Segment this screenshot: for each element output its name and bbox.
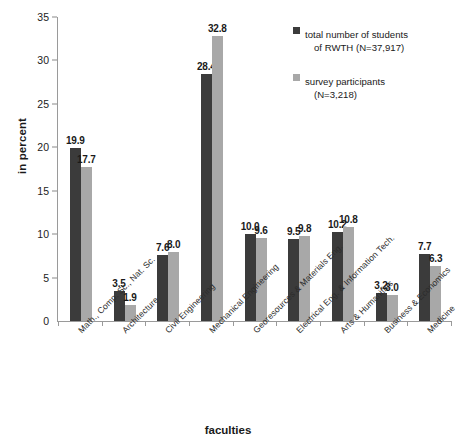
legend-entry-total-students: total number of students of RWTH (N=37,9… (293, 24, 453, 55)
x-axis-title: faculties (0, 424, 456, 436)
x-tick-mark (276, 321, 277, 326)
bar-series-1 (212, 36, 223, 321)
x-tick-mark (364, 321, 365, 326)
bar-value-label: 32.8 (208, 23, 227, 34)
bar-value-label: 10.8 (339, 214, 358, 225)
bar-chart: in percent 05101520253035 19.917.73.51.9… (0, 0, 456, 447)
y-tick-label-35: 35 (37, 11, 49, 23)
bar-value-label: 17.7 (77, 154, 96, 165)
legend-label-series-1: survey participants (N=3,218) (305, 76, 453, 102)
y-tick-label-20: 20 (37, 141, 49, 153)
y-tick-label-25: 25 (37, 98, 49, 110)
y-tick-label-30: 30 (37, 54, 49, 66)
bar-value-label: 7.7 (418, 241, 431, 252)
x-tick-mark (407, 321, 408, 326)
x-tick-mark (451, 321, 452, 326)
legend-label-series-0: total number of students of RWTH (N=37,9… (305, 29, 453, 55)
legend-swatch-icon-series-1 (293, 74, 300, 81)
x-tick-mark (102, 321, 103, 326)
bar-series-0 (245, 234, 256, 321)
bar-group: 7.68.0 (157, 17, 179, 321)
x-tick-mark (233, 321, 234, 326)
bar-series-0 (70, 148, 81, 321)
y-tick-label-5: 5 (43, 272, 49, 284)
bar-value-label: 1.9 (123, 292, 136, 303)
legend-swatch-icon-series-0 (293, 27, 300, 34)
legend-label-series-1-line2: (N=3,218) (305, 89, 453, 102)
bar-value-label: 9.8 (298, 223, 311, 234)
bar-series-1 (168, 252, 179, 321)
bar-group: 28.432.8 (201, 17, 223, 321)
bar-value-label: 8.0 (167, 239, 180, 250)
bar-series-1 (81, 167, 92, 321)
x-tick-mark (320, 321, 321, 326)
bar-group: 19.917.7 (70, 17, 92, 321)
legend-label-series-0-line1: total number of students (305, 29, 408, 40)
bar-value-label: 19.9 (66, 135, 85, 146)
chart-legend: total number of students of RWTH (N=37,9… (293, 24, 453, 117)
bar-series-0 (157, 255, 168, 321)
bar-value-label: 6.3 (429, 253, 442, 264)
legend-label-series-0-line2: of RWTH (N=37,917) (305, 42, 453, 55)
y-axis-ticks: 05101520253035 (0, 0, 58, 447)
x-tick-mark (145, 321, 146, 326)
legend-entry-survey-participants: survey participants (N=3,218) (293, 71, 453, 102)
x-tick-mark (58, 321, 59, 326)
bar-value-label: 9.6 (254, 225, 267, 236)
x-tick-mark (189, 321, 190, 326)
y-tick-label-15: 15 (37, 185, 49, 197)
y-tick-label-10: 10 (37, 228, 49, 240)
legend-label-series-1-line1: survey participants (305, 76, 385, 87)
y-tick-label-0: 0 (43, 315, 49, 327)
